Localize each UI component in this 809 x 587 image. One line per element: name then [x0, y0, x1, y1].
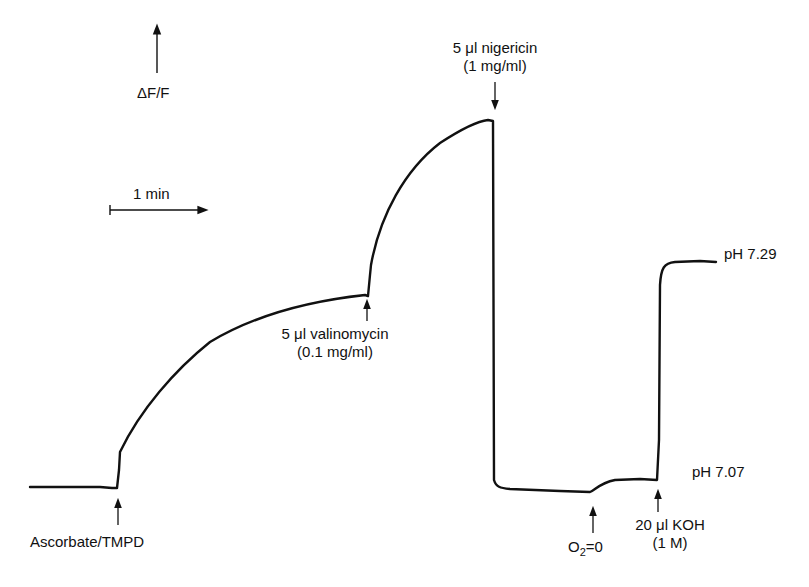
o2-zero-eq: =0	[586, 538, 603, 555]
ph-low-label: pH 7.07	[692, 463, 745, 480]
koh-conc-label: (1 M)	[653, 534, 688, 551]
time-scale-label: 1 min	[133, 185, 170, 202]
nigericin-label: 5 μl nigericin	[453, 39, 538, 56]
delta-f-label: ΔF/F	[137, 84, 170, 101]
valinomycin-label: 5 μl valinomycin	[281, 325, 388, 342]
ascorbate-label: Ascorbate/TMPD	[30, 533, 144, 550]
ph-high-label: pH 7.29	[724, 245, 777, 262]
valinomycin-conc-label: (0.1 mg/ml)	[297, 343, 373, 360]
o2-zero-label: O2=0	[568, 538, 603, 561]
koh-label: 20 μl KOH	[635, 516, 705, 533]
chart-canvas	[0, 0, 809, 587]
o2-zero-o: O	[568, 538, 580, 555]
fluorescence-trace	[30, 120, 716, 492]
time-scale-bar	[110, 205, 203, 215]
nigericin-conc-label: (1 mg/ml)	[463, 57, 526, 74]
